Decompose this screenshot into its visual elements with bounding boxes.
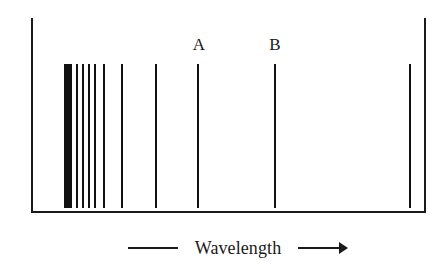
- spectral-line: [409, 64, 411, 208]
- spectral-line-group: [0, 0, 447, 268]
- spectral-line: [103, 64, 105, 208]
- marker-a-label: A: [187, 36, 211, 53]
- spectral-line: [197, 64, 199, 208]
- spectral-line: [76, 64, 78, 208]
- spectral-line: [121, 64, 123, 208]
- wavelength-label: Wavelength: [178, 236, 298, 260]
- spectral-band: [64, 64, 72, 208]
- spectrum-figure: AB Wavelength: [0, 0, 447, 268]
- wavelength-axis-caption: Wavelength: [0, 236, 447, 262]
- spectral-line: [94, 64, 96, 208]
- caption-rule-left: [128, 247, 178, 249]
- spectral-line: [155, 64, 157, 208]
- spectral-line: [82, 64, 84, 208]
- spectral-line: [88, 64, 90, 208]
- spectral-line: [274, 64, 276, 208]
- marker-b-label: B: [263, 36, 287, 53]
- caption-rule-right: [298, 247, 342, 249]
- right-arrow-icon: [339, 242, 348, 254]
